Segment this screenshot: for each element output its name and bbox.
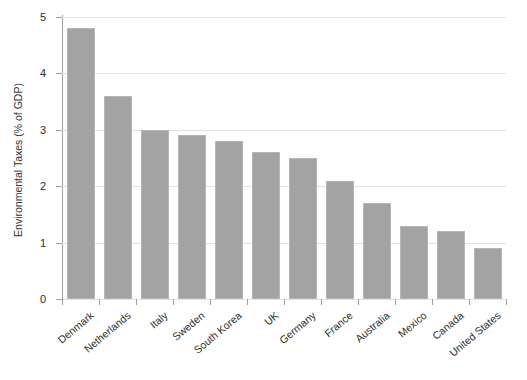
bar: [326, 181, 354, 299]
x-tick-mark: [136, 299, 137, 305]
x-tick-mark: [432, 299, 433, 305]
x-tick-mark: [321, 299, 322, 305]
y-tick-label-3: 3: [0, 124, 46, 136]
y-axis-title-text: Environmental Taxes (% of GDP): [12, 83, 24, 237]
y-tick-label-0: 0: [0, 293, 46, 305]
x-axis-label: France: [321, 309, 354, 339]
x-tick-mark: [284, 299, 285, 305]
x-axis-label: Mexico: [395, 309, 428, 340]
bar: [252, 152, 280, 299]
plot-area: [62, 17, 506, 299]
x-axis-label: Germany: [276, 309, 317, 346]
x-tick-mark: [62, 299, 63, 305]
bar-chart-figure: Environmental Taxes (% of GDP) 012345 De…: [0, 0, 527, 380]
bar: [474, 248, 502, 299]
x-axis-label: Italy: [147, 309, 169, 331]
bar: [141, 130, 169, 299]
y-tick-label-5: 5: [0, 11, 46, 23]
x-tick-mark: [358, 299, 359, 305]
x-tick-mark: [469, 299, 470, 305]
y-tick-label-4: 4: [0, 67, 46, 79]
x-tick-mark: [210, 299, 211, 305]
bar: [289, 158, 317, 299]
x-tick-mark: [99, 299, 100, 305]
y-tick-label-2: 2: [0, 180, 46, 192]
bar: [67, 28, 95, 299]
gridline-5: [62, 17, 506, 18]
y-axis-title: Environmental Taxes (% of GDP): [9, 70, 27, 250]
x-tick-mark: [247, 299, 248, 305]
bar: [104, 96, 132, 299]
bar: [400, 226, 428, 299]
x-axis-label: UK: [261, 309, 280, 328]
x-tick-mark: [173, 299, 174, 305]
x-tick-mark: [506, 299, 507, 305]
bar: [363, 203, 391, 299]
x-tick-mark: [395, 299, 396, 305]
bar: [178, 135, 206, 299]
chart-title: [0, 0, 527, 4]
gridline-4: [62, 73, 506, 74]
bar: [437, 231, 465, 299]
x-axis-label: Australia: [352, 309, 391, 344]
bar: [215, 141, 243, 299]
y-tick-label-1: 1: [0, 237, 46, 249]
